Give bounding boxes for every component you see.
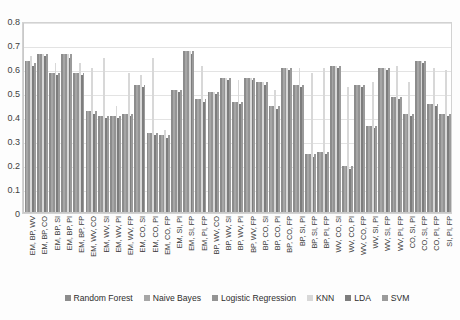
x-tick-label: EM, CO, PI — [146, 215, 158, 283]
bar-group — [61, 23, 73, 212]
bar-series-layer — [24, 23, 451, 212]
bar-group — [439, 23, 451, 212]
x-tick-label: WV, SI, FP — [378, 215, 390, 283]
bar-group — [122, 23, 134, 212]
bar-group — [36, 23, 48, 212]
legend-item[interactable]: LDA — [345, 294, 371, 303]
bar-group — [366, 23, 378, 212]
bar-group — [244, 23, 256, 212]
bar-group — [305, 23, 317, 212]
x-tick-label: BP, WV, PI — [231, 215, 243, 283]
legend-swatch-icon — [345, 295, 351, 301]
y-tick-label: 0.4 — [0, 114, 20, 123]
bar-group — [170, 23, 182, 212]
legend-label: SVM — [391, 294, 410, 303]
bar-group — [341, 23, 353, 212]
bar-group — [158, 23, 170, 212]
x-tick-label: BP, PI, FP — [317, 215, 329, 283]
x-tick-label: EM, WV, CO — [84, 215, 96, 283]
x-tick-label: EM, BP, CO — [35, 215, 47, 283]
bar-group — [231, 23, 243, 212]
y-tick-label: 0.5 — [0, 90, 20, 99]
x-tick-label: WV, CO, FP — [354, 215, 366, 283]
bar-group — [85, 23, 97, 212]
x-tick-label: EM, BP, SI — [48, 215, 60, 283]
legend-swatch-icon — [382, 295, 388, 301]
x-tick-label: BP, CO, SI — [256, 215, 268, 283]
bar — [449, 114, 451, 212]
legend-item[interactable]: Naive Bayes — [144, 294, 201, 303]
legend-label: Logistic Regression — [221, 294, 296, 303]
legend-label: Naive Bayes — [153, 294, 201, 303]
x-tick-label: CO, SI, FP — [415, 215, 427, 283]
bar-group — [134, 23, 146, 212]
x-tick-label: EM, PI, FP — [195, 215, 207, 283]
x-tick-label: CO, SI, PI — [403, 215, 415, 283]
x-tick-label: BP, CO, PI — [268, 215, 280, 283]
x-tick-label: EM, CO, FP — [158, 215, 170, 283]
legend-item[interactable]: Logistic Regression — [212, 294, 296, 303]
bar-group — [292, 23, 304, 212]
bar-group — [109, 23, 121, 212]
y-tick-label: 0.3 — [0, 138, 20, 147]
y-tick-label: 0.8 — [0, 18, 20, 27]
legend-swatch-icon — [144, 295, 150, 301]
x-tick-label: SI, PI, FP — [440, 215, 452, 283]
y-tick-label: 0 — [0, 210, 20, 219]
legend-swatch-icon — [307, 295, 313, 301]
x-tick-label: BP, SI, PI — [293, 215, 305, 283]
legend-swatch-icon — [212, 295, 218, 301]
legend-label: KNN — [316, 294, 334, 303]
x-tick-label: EM, WV, PI — [109, 215, 121, 283]
bar-group — [317, 23, 329, 212]
x-tick-label: CO, PI, FP — [427, 215, 439, 283]
y-tick-label: 0.2 — [0, 162, 20, 171]
legend-item[interactable]: KNN — [307, 294, 334, 303]
bar-group — [390, 23, 402, 212]
legend-item[interactable]: Random Forest — [65, 294, 133, 303]
x-tick-label: WV, CO, SI — [329, 215, 341, 283]
bar-group — [378, 23, 390, 212]
x-tick-label: BP, WV, SI — [219, 215, 231, 283]
bar-group — [280, 23, 292, 212]
x-tick-label: EM, BP, PI — [60, 215, 72, 283]
y-axis: 0.80.70.60.50.40.30.20.10 — [0, 22, 20, 214]
bar-group — [329, 23, 341, 212]
x-tick-label: WV, SI, PI — [366, 215, 378, 283]
chart-container: 0.80.70.60.50.40.30.20.10 EM, BP, WVEM, … — [0, 0, 460, 320]
y-tick-label: 0.6 — [0, 66, 20, 75]
plot-area — [22, 22, 452, 214]
x-tick-label: BP, WV, CO — [207, 215, 219, 283]
chart-legend: Random ForestNaive BayesLogistic Regress… — [22, 288, 452, 308]
y-tick-label: 0.1 — [0, 186, 20, 195]
bar-group — [415, 23, 427, 212]
bar-group — [219, 23, 231, 212]
bar-group — [73, 23, 85, 212]
x-tick-label: EM, CO, SI — [133, 215, 145, 283]
x-tick-label: BP, SI, FP — [305, 215, 317, 283]
x-tick-label: EM, WV, FP — [121, 215, 133, 283]
x-axis-line — [23, 212, 451, 213]
legend-item[interactable]: SVM — [382, 294, 410, 303]
bar-group — [427, 23, 439, 212]
bar-group — [256, 23, 268, 212]
bar-group — [146, 23, 158, 212]
bar-group — [353, 23, 365, 212]
x-tick-label: EM, BP, WV — [23, 215, 35, 283]
bar-group — [183, 23, 195, 212]
bar-group — [207, 23, 219, 212]
legend-label: Random Forest — [74, 294, 133, 303]
y-tick-label: 0.7 — [0, 42, 20, 51]
bar-group — [195, 23, 207, 212]
bar-group — [48, 23, 60, 212]
x-axis: EM, BP, WVEM, BP, COEM, BP, SIEM, BP, PI… — [23, 215, 452, 283]
x-tick-label: WV, CO, PI — [342, 215, 354, 283]
x-tick-label: EM, WV, SI — [97, 215, 109, 283]
x-tick-label: EM, BP, FP — [72, 215, 84, 283]
legend-label: LDA — [354, 294, 371, 303]
bar-group — [24, 23, 36, 212]
x-tick-label: BP, CO, FP — [280, 215, 292, 283]
x-tick-label: EM, SI, PI — [170, 215, 182, 283]
x-tick-label: WV, PI, FP — [391, 215, 403, 283]
bar-group — [402, 23, 414, 212]
